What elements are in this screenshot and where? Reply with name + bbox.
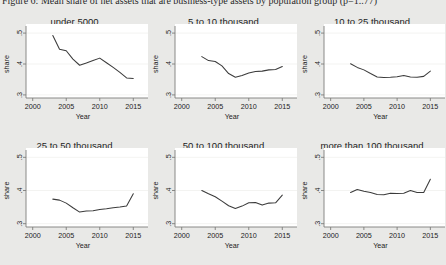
x-tick-label: 2000 xyxy=(174,102,190,111)
panel-plot: .5.4.32000200520102015Yearshare xyxy=(298,10,446,134)
y-tick-label: .4 xyxy=(313,188,322,194)
x-axis-title: Year xyxy=(225,241,240,250)
y-axis-title: share xyxy=(151,55,160,73)
x-tick-label: 2000 xyxy=(25,102,41,111)
panel-plot: .5.4.32000200520102015Yearshare xyxy=(149,134,298,263)
x-tick-label: 2015 xyxy=(422,231,438,240)
y-axis-title: share xyxy=(2,55,11,73)
x-tick-label: 2010 xyxy=(389,231,405,240)
x-tick-label: 2000 xyxy=(323,102,339,111)
y-tick-label: .5 xyxy=(313,30,322,36)
x-axis-title: Year xyxy=(225,112,240,121)
y-tick-label: .5 xyxy=(15,30,24,36)
y-tick-label: .3 xyxy=(313,221,322,227)
x-tick-label: 2000 xyxy=(323,231,339,240)
chart-panel: under 5000.5.4.32000200520102015Yearshar… xyxy=(0,10,149,134)
panel-plot: .5.4.32000200520102015Yearshare xyxy=(0,10,149,134)
chart-panel: 5 to 10 thousand.5.4.32000200520102015Ye… xyxy=(149,10,298,134)
y-tick-label: .4 xyxy=(15,188,24,194)
plot-background xyxy=(175,148,297,227)
x-tick-label: 2015 xyxy=(274,231,290,240)
chart-panel: 10 to 25 thousand.5.4.32000200520102015Y… xyxy=(298,10,446,134)
y-tick-label: .5 xyxy=(164,154,173,160)
y-tick-label: .5 xyxy=(164,30,173,36)
x-axis-title: Year xyxy=(373,241,388,250)
y-axis-title: share xyxy=(151,182,160,200)
x-tick-label: 2005 xyxy=(207,102,223,111)
x-tick-label: 2015 xyxy=(274,102,290,111)
x-axis-title: Year xyxy=(76,112,91,121)
plot-background xyxy=(175,24,297,98)
x-axis-title: Year xyxy=(76,241,91,250)
x-tick-label: 2015 xyxy=(125,231,141,240)
y-tick-label: .3 xyxy=(164,92,173,98)
x-tick-label: 2000 xyxy=(174,231,190,240)
chart-panel: 50 to 100 thousand.5.4.32000200520102015… xyxy=(149,134,298,263)
x-tick-label: 2015 xyxy=(125,102,141,111)
y-tick-label: .4 xyxy=(15,61,24,67)
panel-plot: .5.4.32000200520102015Yearshare xyxy=(149,10,298,134)
plot-background xyxy=(324,24,445,98)
x-tick-label: 2005 xyxy=(356,102,372,111)
panel-plot: .5.4.32000200520102015Yearshare xyxy=(298,134,446,263)
plot-background xyxy=(324,148,445,227)
y-tick-label: .3 xyxy=(15,92,24,98)
x-tick-label: 2015 xyxy=(422,102,438,111)
x-tick-label: 2010 xyxy=(92,231,108,240)
y-tick-label: .5 xyxy=(15,154,24,160)
x-tick-label: 2005 xyxy=(58,231,74,240)
y-tick-label: .4 xyxy=(164,61,173,67)
x-tick-label: 2010 xyxy=(389,102,405,111)
y-tick-label: .5 xyxy=(313,154,322,160)
y-axis-title: share xyxy=(300,182,309,200)
x-tick-label: 2010 xyxy=(241,102,257,111)
panel-grid: under 5000.5.4.32000200520102015Yearshar… xyxy=(0,10,446,265)
x-tick-label: 2000 xyxy=(25,231,41,240)
x-tick-label: 2010 xyxy=(241,231,257,240)
y-axis-title: share xyxy=(300,55,309,73)
x-tick-label: 2005 xyxy=(207,231,223,240)
panel-plot: .5.4.32000200520102015Yearshare xyxy=(0,134,149,263)
chart-panel: more than 100 thousand.5.4.3200020052010… xyxy=(298,134,446,263)
y-tick-label: .3 xyxy=(15,221,24,227)
plot-background xyxy=(26,24,148,98)
figure-caption: Figure 6: Mean share of net assets that … xyxy=(2,0,446,7)
y-axis-title: share xyxy=(2,182,11,200)
chart-panel: 25 to 50 thousand.5.4.32000200520102015Y… xyxy=(0,134,149,263)
x-tick-label: 2005 xyxy=(356,231,372,240)
x-tick-label: 2010 xyxy=(92,102,108,111)
y-tick-label: .3 xyxy=(313,92,322,98)
x-tick-label: 2005 xyxy=(58,102,74,111)
x-axis-title: Year xyxy=(373,112,388,121)
y-tick-label: .3 xyxy=(164,221,173,227)
plot-background xyxy=(26,148,148,227)
y-tick-label: .4 xyxy=(164,188,173,194)
y-tick-label: .4 xyxy=(313,61,322,67)
